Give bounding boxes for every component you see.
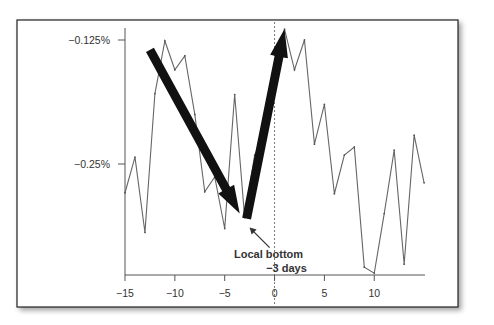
x-tick-label: 5 bbox=[321, 287, 327, 299]
data-point bbox=[403, 263, 405, 265]
data-point bbox=[383, 213, 385, 215]
x-tick-label: 10 bbox=[368, 287, 380, 299]
data-point bbox=[164, 40, 166, 42]
data-point bbox=[314, 143, 316, 145]
data-point bbox=[124, 192, 126, 194]
x-tick-label: −5 bbox=[219, 287, 231, 299]
data-point bbox=[224, 228, 226, 230]
data-point bbox=[324, 104, 326, 106]
data-point bbox=[343, 154, 345, 156]
data-point bbox=[373, 272, 375, 274]
data-point bbox=[154, 93, 156, 95]
data-point bbox=[363, 266, 365, 268]
chart: −15−10−50510−0.125%−0.25% Local bottom−3… bbox=[0, 0, 494, 325]
y-tick-label: −0.25% bbox=[74, 158, 110, 170]
y-tick-label: −0.125% bbox=[68, 34, 110, 46]
data-point bbox=[333, 193, 335, 195]
data-point bbox=[423, 182, 425, 184]
data-point bbox=[353, 146, 355, 148]
data-point bbox=[174, 69, 176, 71]
annotation-label-line1: Local bottom bbox=[234, 248, 303, 260]
data-point bbox=[204, 191, 206, 193]
data-point bbox=[304, 39, 306, 41]
data-point bbox=[413, 134, 415, 136]
x-tick-label: 0 bbox=[272, 287, 278, 299]
data-point bbox=[144, 232, 146, 234]
data-point bbox=[194, 114, 196, 116]
annotation-label-line2: −3 days bbox=[266, 262, 307, 274]
data-point bbox=[294, 69, 296, 71]
x-tick-label: −10 bbox=[166, 287, 184, 299]
data-point bbox=[184, 55, 186, 57]
data-point bbox=[134, 156, 136, 158]
x-tick-label: −15 bbox=[116, 287, 134, 299]
data-point bbox=[234, 94, 236, 96]
data-point bbox=[393, 149, 395, 151]
